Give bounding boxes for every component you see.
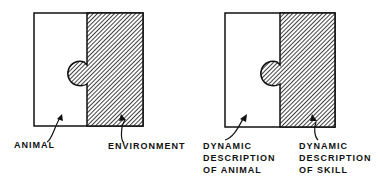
dynamic-description-animal-label: DYNAMIC DESCRIPTION OF ANIMAL bbox=[203, 140, 276, 176]
animal-environment-puzzle bbox=[34, 13, 143, 143]
label-line: DYNAMIC bbox=[299, 140, 372, 152]
label-line: DYNAMIC bbox=[203, 140, 276, 152]
label-line: DESCRIPTION bbox=[203, 152, 276, 164]
label-line: DESCRIPTION bbox=[299, 152, 372, 164]
dynamic-description-puzzle bbox=[225, 13, 335, 140]
dynamic-description-skill-label: DYNAMIC DESCRIPTION OF SKILL bbox=[299, 140, 372, 176]
animal-label: ANIMAL bbox=[14, 139, 55, 151]
label-line: OF SKILL bbox=[299, 164, 372, 176]
environment-label: ENVIRONMENT bbox=[108, 140, 186, 152]
label-line: OF ANIMAL bbox=[203, 164, 276, 176]
